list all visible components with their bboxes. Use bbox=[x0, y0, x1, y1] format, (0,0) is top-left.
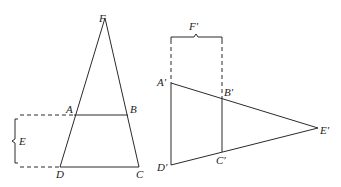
figure-canvas: F A B D C E F′ A′ B′ C′ D′ E′ bbox=[0, 0, 341, 187]
label-Fprime: F′ bbox=[188, 20, 199, 32]
label-Dprime: D′ bbox=[156, 161, 168, 173]
label-Aprime: A′ bbox=[156, 76, 167, 88]
brace-Fprime bbox=[171, 34, 222, 40]
side-FD bbox=[60, 18, 105, 167]
label-D: D bbox=[55, 168, 64, 180]
label-C: C bbox=[136, 168, 144, 180]
label-F: F bbox=[98, 12, 106, 24]
label-Eprime: E′ bbox=[319, 124, 330, 136]
side-DprimeEprime bbox=[171, 128, 318, 165]
geometry-figure: F A B D C E F′ A′ B′ C′ D′ E′ bbox=[0, 0, 341, 187]
side-FC bbox=[105, 18, 139, 167]
label-Bprime: B′ bbox=[224, 86, 234, 98]
right-figure: F′ A′ B′ C′ D′ E′ bbox=[156, 20, 330, 173]
brace-E bbox=[12, 119, 18, 163]
label-B: B bbox=[130, 103, 137, 115]
side-AprimeEprime bbox=[171, 83, 318, 128]
left-figure: F A B D C E bbox=[12, 12, 144, 180]
label-A: A bbox=[65, 103, 73, 115]
label-E: E bbox=[18, 135, 26, 147]
label-Cprime: C′ bbox=[216, 154, 226, 166]
